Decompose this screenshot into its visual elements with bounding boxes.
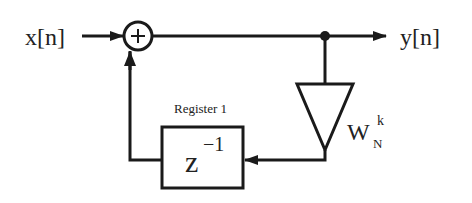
register-label: Register 1: [174, 101, 227, 116]
svg-text:W: W: [347, 119, 370, 145]
feedback-arrow-to-register: [245, 150, 325, 160]
gain-triangle: [297, 84, 353, 150]
feedback-line: [130, 52, 162, 160]
svg-text:k: k: [377, 113, 384, 128]
block-diagram: x[n] y[n] W k N Register 1 z −1: [0, 0, 472, 203]
svg-text:N: N: [373, 136, 383, 151]
svg-text:z: z: [185, 145, 198, 178]
input-label: x[n]: [25, 24, 65, 50]
output-label: y[n]: [400, 24, 440, 50]
gain-label: W k N: [347, 113, 384, 151]
svg-text:−1: −1: [203, 133, 224, 155]
feedback-arrowhead: [124, 51, 136, 66]
adder-node: [124, 22, 152, 50]
